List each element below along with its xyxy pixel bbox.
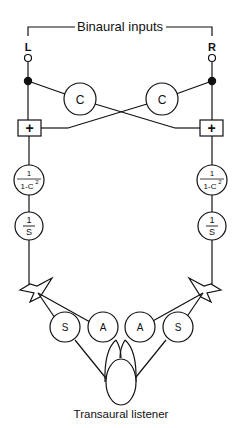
svg-text:1-C: 1-C xyxy=(21,182,34,191)
svg-text:S: S xyxy=(209,227,215,237)
input-left-label: L xyxy=(25,41,32,53)
summer-right-label: + xyxy=(207,120,215,136)
summer-left-label: + xyxy=(25,120,33,136)
crossfeed-right-label: C xyxy=(158,93,167,107)
svg-text:A: A xyxy=(137,322,144,333)
equalizer-right: 1 1-C 2 xyxy=(197,165,227,195)
svg-text:1: 1 xyxy=(26,215,31,225)
svg-text:1-C: 1-C xyxy=(204,182,217,191)
svg-text:S: S xyxy=(62,322,69,333)
path-circle-1: A xyxy=(88,312,118,342)
path-circle-2: A xyxy=(125,312,155,342)
listener-head xyxy=(106,359,136,405)
input-right-label: R xyxy=(208,41,216,53)
equalizer-left: 1 1-C 2 xyxy=(14,165,44,195)
input-right-terminal xyxy=(209,55,216,62)
svg-text:S: S xyxy=(175,322,182,333)
bracket-title: Binaural inputs xyxy=(77,19,163,34)
listener-label: Transaural listener xyxy=(74,408,169,420)
crossfeed-left-label: C xyxy=(76,93,85,107)
path-circle-3: S xyxy=(163,312,193,342)
svg-text:1: 1 xyxy=(210,169,215,178)
svg-text:S: S xyxy=(26,227,32,237)
svg-text:1: 1 xyxy=(209,215,214,225)
speaker-filter-left: 1 S xyxy=(15,212,43,240)
svg-text:1: 1 xyxy=(27,169,32,178)
input-left-terminal xyxy=(25,55,32,62)
speaker-filter-right: 1 S xyxy=(198,212,226,240)
svg-text:A: A xyxy=(100,322,107,333)
path-circle-0: S xyxy=(50,312,80,342)
transaural-diagram: Binaural inputs L R C C + + 1 1-C 2 1 1-… xyxy=(0,0,241,428)
